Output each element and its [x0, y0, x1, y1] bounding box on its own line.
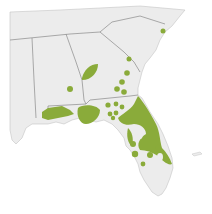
range-dot [108, 112, 113, 117]
range-dot [114, 102, 119, 107]
range-dot [130, 141, 136, 147]
range-dot [124, 70, 130, 76]
range-dot [114, 86, 120, 92]
range-dot [151, 127, 155, 131]
range-dot [121, 89, 127, 95]
range-dot [114, 111, 119, 116]
range-dot [120, 105, 125, 110]
range-map [0, 0, 212, 214]
range-dot [119, 79, 125, 85]
range-dot [105, 102, 110, 107]
range-dot [147, 152, 153, 158]
range-dot [127, 57, 132, 62]
range-dot [132, 151, 138, 157]
range-dot [67, 86, 73, 92]
range-dot [111, 116, 115, 120]
range-dot [161, 29, 166, 34]
range-dot [141, 162, 146, 167]
range-dot [155, 144, 160, 149]
